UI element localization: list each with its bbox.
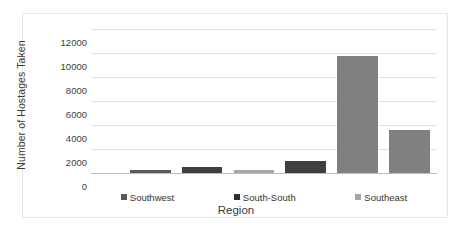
chart-container: Number of Hostages Taken 120001000080006…: [22, 13, 448, 218]
y-tick-label-12000: 12000: [61, 37, 87, 48]
bar-southwest-2: [182, 167, 223, 173]
y-axis-title: Number of Hostages Taken: [15, 0, 29, 30]
x-axis-line: [91, 173, 437, 174]
legend-swatch-icon: [121, 194, 127, 200]
legend-item-southeast[interactable]: Southeast: [355, 192, 407, 203]
bar-south-south-1: [234, 170, 275, 173]
y-axis-tick-labels: 120001000080006000400020000: [45, 14, 89, 219]
y-tick-label-2000: 2000: [66, 157, 87, 168]
legend-label: Southeast: [364, 192, 407, 203]
x-axis-title: Region: [23, 204, 449, 216]
legend-item-south-south[interactable]: South-South: [234, 192, 296, 203]
y-tick-label-4000: 4000: [66, 133, 87, 144]
bar-south-south-2: [285, 161, 326, 173]
bar-southeast-2: [389, 130, 430, 173]
legend-swatch-icon: [355, 194, 361, 200]
legend-item-southwest[interactable]: Southwest: [121, 192, 174, 203]
legend-label: Southwest: [130, 192, 174, 203]
y-tick-label-6000: 6000: [66, 109, 87, 120]
bar-southwest-1: [130, 170, 171, 173]
bar-southeast-1: [337, 56, 378, 173]
chart-legend: SouthwestSouth-SouthSoutheast: [91, 190, 437, 204]
y-axis-title-label: Number of Hostages Taken: [15, 30, 27, 180]
legend-swatch-icon: [234, 194, 240, 200]
bar-series: [91, 29, 437, 173]
legend-label: South-South: [243, 192, 296, 203]
plot-area: [91, 29, 437, 173]
y-tick-label-10000: 10000: [61, 61, 87, 72]
y-tick-label-8000: 8000: [66, 85, 87, 96]
y-tick-label-0: 0: [82, 181, 87, 192]
